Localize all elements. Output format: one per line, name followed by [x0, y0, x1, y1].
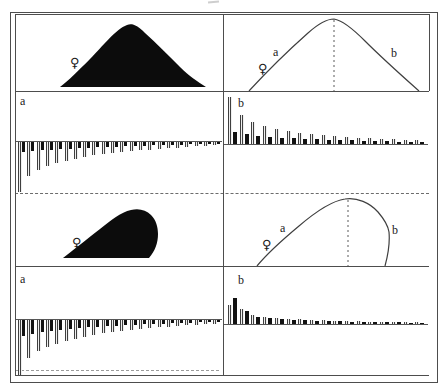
bar-solid [41, 320, 44, 332]
bar-hatched [240, 115, 244, 144]
bar-solid [50, 142, 53, 150]
bar-solid [409, 142, 413, 144]
female-symbol: ♀ [72, 235, 82, 250]
bar-solid [180, 142, 183, 145]
bar-solid [338, 140, 342, 144]
bar-hatched [415, 140, 419, 144]
bar-solid [373, 141, 377, 144]
bar-solid [303, 139, 307, 144]
bar-solid [420, 323, 424, 324]
female-symbol: ♀ [262, 237, 272, 252]
bar-solid [350, 140, 354, 144]
bar-solid [217, 142, 220, 144]
slope-label-a: a [280, 221, 286, 235]
bar-hatched [228, 97, 232, 144]
bar-solid [350, 322, 354, 324]
bar-chart-lower-a: a [16, 267, 223, 375]
bar-solid [41, 142, 44, 150]
bar-solid [134, 142, 137, 146]
bar-solid [268, 318, 272, 324]
bar-hatched [310, 320, 314, 324]
bar-solid [280, 319, 284, 324]
filled-skew-svg: ♀ [16, 194, 223, 266]
bar-hatched [275, 318, 279, 324]
bar-hatched [392, 322, 396, 324]
bar-chart-upper-a: a [16, 92, 223, 193]
bar-hatched [322, 135, 326, 144]
bar-hatched [322, 320, 326, 324]
bar-solid [59, 142, 62, 149]
bar-solid [134, 320, 137, 325]
bar-solid [362, 141, 366, 144]
bar-hatched [228, 305, 232, 324]
bar-solid [78, 142, 81, 148]
bar-solid [115, 320, 118, 326]
bar-solid [362, 322, 366, 324]
bar-hatched [333, 321, 337, 324]
panel-top-right-distribution: a b ♀ [224, 15, 429, 91]
bar-hatched [333, 136, 337, 144]
female-symbol: ♀ [258, 61, 268, 76]
slope-label-a: a [273, 45, 279, 59]
grid-line-right [429, 14, 430, 91]
slope-label-b: b [391, 46, 397, 60]
bar-solid [315, 139, 319, 144]
bar-solid [162, 320, 165, 324]
panel-top-left-distribution: ♀ [16, 15, 223, 91]
bar-hatched [404, 140, 408, 144]
bar-solid [162, 142, 165, 145]
bar-solid [397, 142, 401, 144]
bar-hatched [298, 133, 302, 144]
skewed-outline-curve [257, 199, 389, 266]
bar-hatched [263, 126, 267, 144]
bar-solid [256, 317, 260, 324]
bar-solid [199, 320, 202, 322]
bar-solid [106, 142, 109, 147]
bar-solid [373, 322, 377, 324]
bar-solid [208, 320, 211, 322]
bar-hatched [345, 321, 349, 324]
bar-solid [106, 320, 109, 326]
bar-hatched [380, 322, 384, 324]
bar-hatched [368, 322, 372, 324]
bar-solid [171, 320, 174, 323]
axis-baseline [224, 324, 428, 325]
scan-artifact [208, 1, 219, 4]
bar-hatched [415, 322, 419, 324]
bar-chart-upper-b: b [224, 92, 429, 193]
bar-solid [69, 320, 72, 329]
bar-chart-lower-b: b [224, 267, 429, 375]
bar-solid [180, 320, 183, 323]
bar-hatched [251, 315, 255, 324]
bar-solid [31, 142, 34, 151]
bar-solid [245, 134, 249, 144]
bar-hatched [404, 322, 408, 324]
bar-solid [124, 320, 127, 325]
bar-hatched [251, 122, 255, 144]
tick-strip [16, 370, 219, 371]
bar-hatched [357, 321, 361, 324]
bar-solid [50, 320, 53, 331]
bar-hatched [380, 139, 384, 144]
bar-hatched [298, 319, 302, 324]
bar-hatched [310, 134, 314, 144]
bar-solid [233, 298, 237, 324]
bar-solid [96, 320, 99, 327]
bar-solid [87, 320, 90, 327]
bar-solid [143, 320, 146, 324]
bar-solid [256, 136, 260, 144]
bar-solid [327, 140, 331, 144]
bar-solid [189, 320, 192, 323]
chart-label-b: b [238, 274, 244, 286]
outline-bell-svg: a b ♀ [224, 15, 429, 91]
bar-solid [268, 137, 272, 144]
bar-solid [31, 320, 34, 334]
grid-line-bottom [15, 375, 429, 376]
bar-hatched [345, 137, 349, 144]
female-distribution-filled-shape [60, 24, 206, 87]
bar-solid [409, 323, 413, 324]
chart-label-a: a [20, 273, 25, 285]
chart-label-a: a [20, 95, 25, 107]
bar-hatched [368, 138, 372, 144]
panel-mid-left-distribution: ♀ [16, 194, 223, 266]
